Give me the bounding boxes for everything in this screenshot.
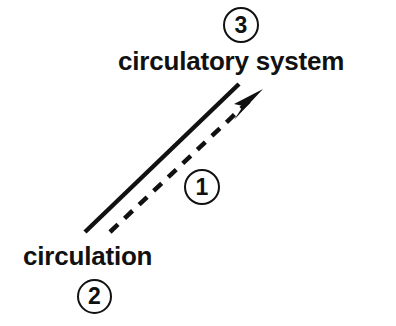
node-label-circulatory-system: circulatory system bbox=[118, 48, 344, 74]
badge-one: 1 bbox=[184, 169, 220, 205]
badge-three: 3 bbox=[223, 7, 259, 43]
solid-line bbox=[85, 84, 239, 232]
arrowhead-icon bbox=[234, 89, 263, 120]
diagram-canvas: circulatory system circulation 3 1 2 bbox=[0, 0, 396, 326]
dashed-line bbox=[110, 101, 249, 232]
badge-two: 2 bbox=[77, 279, 112, 314]
node-label-circulation: circulation bbox=[23, 243, 152, 269]
